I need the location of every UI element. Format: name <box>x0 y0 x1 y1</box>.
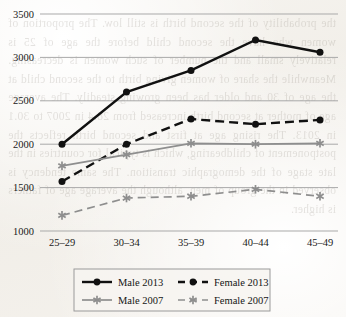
series-line-female-2013 <box>62 119 320 182</box>
x-tick-label: 35–39 <box>178 237 204 248</box>
datapoint-female-2007-4 <box>316 192 323 201</box>
legend-label: Female 2013 <box>214 277 269 288</box>
datapoint-female-2013-0 <box>59 178 66 185</box>
x-tick-label: 45–49 <box>307 237 333 248</box>
legend-circle-marker <box>190 279 197 286</box>
y-axis-tick-labels: 100015002000250030003500 <box>13 9 34 237</box>
datapoint-male-2013-4 <box>317 49 324 56</box>
legend-label: Male 2013 <box>118 277 163 288</box>
y-tick-label: 3500 <box>13 9 34 20</box>
legend-label: Female 2007 <box>214 295 269 306</box>
series-lines-group <box>62 40 320 215</box>
datapoint-female-2013-3 <box>252 121 259 128</box>
datapoint-female-2013-4 <box>317 116 324 123</box>
x-tick-label: 30–34 <box>113 237 140 248</box>
datapoint-male-2013-0 <box>59 141 66 148</box>
datapoint-female-2013-1 <box>123 141 130 148</box>
y-tick-label: 2000 <box>13 139 34 150</box>
legend-label: Male 2007 <box>118 295 163 306</box>
chart-legend: Male 2013Female 2013Male 2007Female 2007 <box>74 269 270 311</box>
y-tick-label: 2500 <box>13 95 34 106</box>
datapoint-male-2013-2 <box>188 67 195 74</box>
series-line-male-2013 <box>62 40 320 144</box>
x-tick-label: 40–44 <box>242 237 269 248</box>
y-tick-label: 3000 <box>13 52 34 63</box>
x-axis-tick-labels: 25–2930–3435–3940–4445–49 <box>49 237 333 248</box>
datapoint-male-2013-3 <box>252 37 259 44</box>
y-tick-label: 1500 <box>13 182 34 193</box>
datapoint-male-2013-1 <box>123 89 130 96</box>
y-tick-label: 1000 <box>13 226 34 237</box>
legend-circle-marker <box>94 279 101 286</box>
datapoint-female-2013-2 <box>188 116 195 123</box>
x-tick-label: 25–29 <box>49 237 75 248</box>
line-chart: 100015002000250030003500 25–2930–3435–39… <box>0 0 346 317</box>
